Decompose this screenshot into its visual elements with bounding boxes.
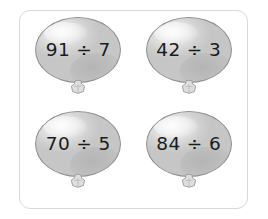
division-expression: 84 ÷ 6	[156, 135, 221, 154]
balloon-cell-bottom-left: 70 ÷ 5	[23, 111, 134, 205]
balloon-knot-icon	[69, 174, 87, 188]
balloon-cell-bottom-right: 84 ÷ 6	[134, 111, 245, 205]
balloon-3[interactable]: 70 ÷ 5	[35, 111, 121, 193]
worksheet-canvas: 91 ÷ 7 42 ÷ 3	[0, 0, 268, 219]
balloon-body: 91 ÷ 7	[35, 17, 121, 83]
balloon-1[interactable]: 91 ÷ 7	[35, 17, 121, 99]
balloon-cell-top-left: 91 ÷ 7	[23, 17, 134, 111]
balloon-knot-icon	[180, 174, 198, 188]
balloon-body: 42 ÷ 3	[146, 17, 232, 83]
balloon-knot-icon	[69, 80, 87, 94]
balloon-body: 84 ÷ 6	[146, 111, 232, 177]
division-expression: 70 ÷ 5	[46, 135, 111, 154]
balloon-cell-top-right: 42 ÷ 3	[134, 17, 245, 111]
balloon-grid: 91 ÷ 7 42 ÷ 3	[19, 10, 248, 209]
balloon-4[interactable]: 84 ÷ 6	[146, 111, 232, 193]
division-expression: 42 ÷ 3	[156, 41, 221, 60]
balloon-knot-icon	[180, 80, 198, 94]
division-expression: 91 ÷ 7	[46, 41, 111, 60]
balloon-2[interactable]: 42 ÷ 3	[146, 17, 232, 99]
balloon-body: 70 ÷ 5	[35, 111, 121, 177]
